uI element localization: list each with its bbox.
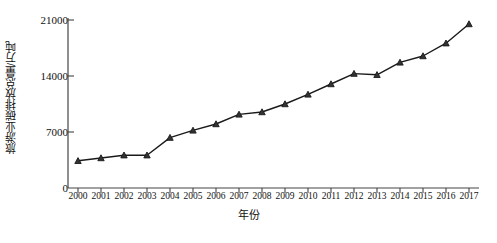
x-tick-label: 2016 [437, 191, 456, 201]
x-tick-label: 2012 [345, 191, 364, 201]
x-tick-label: 2014 [391, 191, 410, 201]
x-tick-label: 2006 [207, 191, 226, 201]
data-point-marker [420, 53, 426, 59]
x-tick-label: 2009 [276, 191, 295, 201]
x-tick-label: 2001 [92, 191, 111, 201]
x-tick-label: 2010 [299, 191, 318, 201]
x-tick-label: 2000 [69, 191, 88, 201]
x-tick-label: 2013 [368, 191, 387, 201]
x-tick-label: 2002 [115, 191, 134, 201]
carbon-emissions-line-chart: 旅游业碳排放总量/万吨 070001400021000 年份 200020012… [0, 0, 497, 243]
x-tick-label: 2005 [184, 191, 203, 201]
x-tick-label: 2004 [161, 191, 180, 201]
x-tick-label: 2007 [230, 191, 249, 201]
data-point-marker [328, 81, 334, 87]
x-tick-label: 2008 [253, 191, 272, 201]
data-point-marker [466, 21, 472, 27]
x-tick-label: 2011 [322, 191, 341, 201]
x-tick-label: 2015 [414, 191, 433, 201]
data-point-marker [305, 91, 311, 97]
x-tick-label: 2017 [460, 191, 479, 201]
x-axis-title: 年份 [0, 206, 497, 222]
x-tick-label: 2003 [138, 191, 157, 201]
data-series-line [78, 24, 469, 161]
